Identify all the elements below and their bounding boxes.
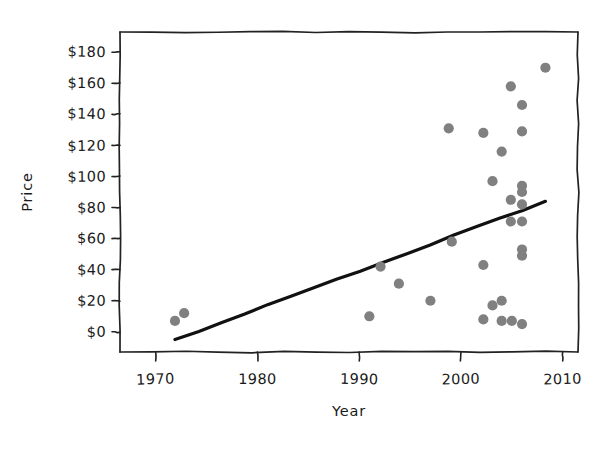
data-point (506, 195, 516, 205)
data-point (179, 308, 189, 318)
plot-border-top (120, 31, 578, 32)
x-axis-line (120, 351, 578, 353)
data-point (497, 296, 507, 306)
y-axis-line (119, 32, 120, 352)
y-tick-label: $160 (67, 75, 106, 92)
x-axis-title: Year (331, 403, 366, 419)
data-point (517, 100, 527, 110)
data-point (497, 316, 507, 326)
y-tick-label: $40 (77, 262, 106, 278)
data-point (517, 319, 527, 329)
regression-line (175, 201, 545, 339)
y-tick-label: $80 (77, 200, 106, 216)
data-point (506, 81, 516, 91)
plot-border-right (577, 32, 579, 352)
data-point (487, 300, 497, 310)
x-tick-mark (562, 352, 563, 361)
data-point (444, 123, 454, 133)
x-tick-label: 2010 (543, 371, 582, 388)
data-point (517, 187, 527, 197)
data-point (425, 296, 435, 306)
data-point (540, 63, 550, 73)
data-point (497, 147, 507, 157)
y-tick-label: $180 (67, 43, 106, 60)
plot-axes (119, 31, 579, 352)
x-tick-label: 1970 (136, 370, 175, 387)
y-tick-label: $140 (67, 105, 106, 122)
data-point (364, 311, 374, 321)
data-point (478, 314, 488, 324)
y-axis-tick-labels: $0$20$40$60$80$100$120$140$160$180 (67, 43, 106, 340)
data-point (375, 261, 385, 271)
x-tick-mark (257, 352, 258, 361)
trend-line (175, 201, 545, 339)
y-tick-label: $20 (77, 293, 106, 309)
data-point (478, 260, 488, 270)
data-point (394, 279, 404, 289)
y-axis-title: Price (19, 172, 35, 211)
x-tick-label: 2000 (441, 371, 480, 388)
chart-figure: $0$20$40$60$80$100$120$140$160$180 19701… (0, 0, 604, 449)
data-point (517, 199, 527, 209)
y-tick-mark (112, 83, 120, 84)
y-tick-label: $0 (87, 324, 106, 340)
data-point (487, 176, 497, 186)
y-tick-mark (112, 114, 120, 115)
x-tick-label: 1980 (238, 371, 277, 387)
y-tick-label: $60 (77, 230, 106, 247)
y-tick-label: $120 (67, 137, 106, 154)
data-point (517, 216, 527, 226)
data-point (517, 251, 527, 261)
data-point (170, 316, 180, 326)
y-tick-mark (112, 332, 120, 333)
scatter-plot: $0$20$40$60$80$100$120$140$160$180 19701… (0, 0, 604, 449)
data-points (170, 63, 551, 330)
data-point (517, 126, 527, 136)
x-tick-label: 1990 (340, 371, 379, 388)
data-point (478, 128, 488, 138)
data-point (506, 216, 516, 226)
y-tick-mark (112, 301, 120, 302)
y-tick-mark (112, 52, 120, 53)
x-axis-tick-labels: 19701980199020002010 (136, 370, 582, 387)
y-tick-mark (112, 176, 120, 177)
y-tick-label: $100 (67, 169, 106, 185)
x-tick-mark (460, 352, 461, 361)
data-point (507, 316, 517, 326)
data-point (447, 237, 457, 247)
